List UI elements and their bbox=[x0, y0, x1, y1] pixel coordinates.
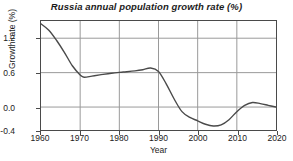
y-tick-label: 0.0 bbox=[3, 103, 15, 113]
y-tick-mark bbox=[36, 73, 40, 74]
x-tick-mark bbox=[119, 131, 120, 135]
x-tick-mark bbox=[198, 131, 199, 135]
chart-title: Russia annual population growth rate (%) bbox=[0, 1, 293, 12]
x-tick-mark bbox=[40, 131, 41, 135]
x-tick-mark bbox=[238, 131, 239, 135]
plot-area bbox=[40, 20, 277, 131]
x-tick-mark bbox=[80, 131, 81, 135]
x-tick-mark bbox=[277, 131, 278, 135]
chart-figure: Russia annual population growth rate (%)… bbox=[0, 0, 293, 161]
y-tick-mark bbox=[36, 38, 40, 39]
y-tick-mark bbox=[36, 108, 40, 109]
y-axis-title: Growth rate (%) bbox=[7, 0, 17, 87]
x-tick-mark bbox=[159, 131, 160, 135]
y-tick-label: -0.4 bbox=[0, 126, 15, 136]
data-line-russia-growth-rate bbox=[41, 21, 276, 130]
x-axis-title: Year bbox=[40, 145, 277, 155]
